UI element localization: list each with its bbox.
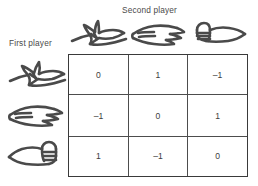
- payoff-matrix: 0 1 –1 –1 0 1 1 –1 0: [68, 54, 248, 177]
- cell-rock-scissors: 1: [69, 136, 128, 176]
- rock-hand-icon: [189, 17, 247, 49]
- table-row: –1 0 1: [69, 95, 247, 137]
- scissors-hand-icon: [8, 59, 66, 91]
- cell-rock-rock: 0: [188, 136, 247, 176]
- second-player-label: Second player: [122, 5, 177, 15]
- payoff-matrix-table: 0 1 –1 –1 0 1 1 –1 0: [69, 55, 247, 176]
- cell-scissors-rock: –1: [188, 55, 247, 95]
- cell-paper-rock: 1: [188, 95, 247, 137]
- table-row: 1 –1 0: [69, 136, 247, 176]
- cell-paper-paper: 0: [128, 95, 187, 137]
- cell-paper-scissors: –1: [69, 95, 128, 137]
- paper-hand-icon: [8, 99, 66, 131]
- cell-rock-paper: –1: [128, 136, 187, 176]
- first-player-label: First player: [9, 38, 52, 48]
- table-row: 0 1 –1: [69, 55, 247, 95]
- paper-hand-icon: [130, 17, 188, 49]
- scissors-hand-icon: [70, 17, 128, 49]
- cell-scissors-scissors: 0: [69, 55, 128, 95]
- cell-scissors-paper: 1: [128, 55, 187, 95]
- rock-hand-icon: [8, 138, 66, 170]
